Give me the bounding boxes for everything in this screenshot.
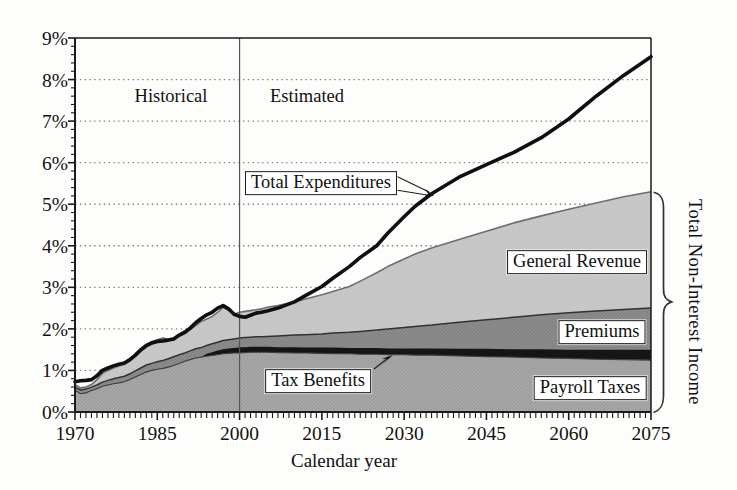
- chart-canvas: [0, 0, 737, 490]
- medicare-stacked-area-figure: Historical Estimated Total Expenditures …: [0, 0, 737, 490]
